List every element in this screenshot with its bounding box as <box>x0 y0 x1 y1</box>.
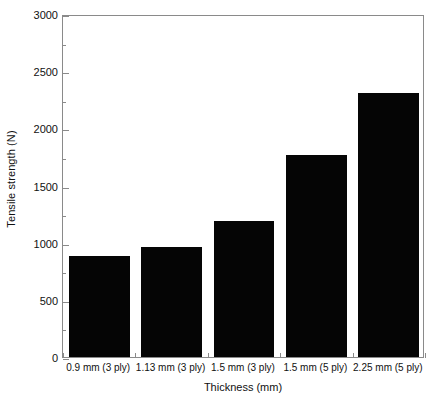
y-axis-minor-tick <box>63 45 66 46</box>
bar <box>286 155 347 357</box>
x-axis-tick-label: 0.9 mm (3 ply) <box>66 362 130 374</box>
x-axis-tick-label: 1.5 mm (3 ply) <box>211 362 275 374</box>
y-axis-tick-label: 1000 <box>18 238 58 249</box>
x-axis-tick <box>208 353 209 358</box>
y-axis-tick-label: 2500 <box>18 67 58 78</box>
y-axis-major-tick <box>63 245 69 246</box>
x-axis-tick-label: 2.25 mm (5 ply) <box>353 362 422 374</box>
bar <box>69 256 130 357</box>
y-axis-tick-label: 0 <box>18 353 58 364</box>
x-axis-tick <box>135 353 136 358</box>
plot-area <box>62 15 424 358</box>
bar <box>214 221 275 357</box>
y-axis-major-tick <box>63 359 69 360</box>
x-axis-title: Thickness (mm) <box>62 381 424 393</box>
y-axis-tick-labels: 050010001500200025003000 <box>16 0 58 410</box>
y-axis-minor-tick <box>63 102 66 103</box>
y-axis-minor-tick <box>63 159 66 160</box>
x-axis-tick-labels: 0.9 mm (3 ply)1.13 mm (3 ply)1.5 mm (3 p… <box>62 362 424 378</box>
y-axis-major-tick <box>63 16 69 17</box>
y-axis-major-tick <box>63 73 69 74</box>
bar <box>141 247 202 357</box>
x-axis-tick <box>63 353 64 358</box>
y-axis-major-tick <box>63 188 69 189</box>
y-axis-major-tick <box>63 130 69 131</box>
x-axis-tick-label: 1.5 mm (5 ply) <box>283 362 347 374</box>
y-axis-tick-label: 500 <box>18 295 58 306</box>
y-axis-minor-tick <box>63 273 66 274</box>
y-axis-minor-tick <box>63 330 66 331</box>
x-axis-tick <box>353 353 354 358</box>
x-axis-tick <box>280 353 281 358</box>
plot-inner <box>63 16 423 357</box>
bar <box>358 93 419 357</box>
x-axis-tick-label: 1.13 mm (3 ply) <box>136 362 205 374</box>
y-axis-tick-label: 1500 <box>18 181 58 192</box>
bar-chart-figure: Tensile strength (N) 0500100015002000250… <box>0 0 440 410</box>
y-axis-tick-label: 3000 <box>18 10 58 21</box>
x-axis-tick <box>425 353 426 358</box>
y-axis-minor-tick <box>63 216 66 217</box>
y-axis-tick-label: 2000 <box>18 124 58 135</box>
